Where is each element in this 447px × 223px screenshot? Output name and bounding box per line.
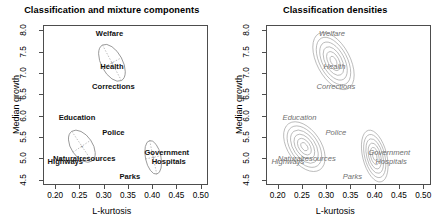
y-tick-label: 5.0 — [234, 153, 260, 163]
data-point-label: Police — [326, 129, 347, 137]
plot-frame-right: WelfareHealthCorrectionsEducationPoliceN… — [266, 25, 431, 185]
y-tick-mark — [262, 52, 266, 53]
y-tick-mark — [39, 158, 43, 159]
data-point-label: Police — [102, 129, 124, 137]
x-tick-mark — [152, 185, 153, 189]
data-point-label: Health — [100, 63, 123, 71]
y-tick-mark — [39, 30, 43, 31]
y-tick-mark — [262, 137, 266, 138]
x-tick-mark — [326, 185, 327, 189]
data-point-label: Corrections — [92, 83, 135, 91]
plot-frame-left: +++WelfareHealthCorrectionsEducationPoli… — [43, 25, 208, 185]
y-tick-label: 8.0 — [234, 25, 260, 35]
x-tick-mark — [128, 185, 129, 189]
x-tick-mark — [375, 185, 376, 189]
density-contour-2 — [275, 114, 334, 179]
y-tick-mark — [39, 180, 43, 181]
y-tick-label: 8.0 — [11, 25, 37, 35]
x-tick-mark — [423, 185, 424, 189]
data-point-label: Government — [368, 149, 410, 157]
data-point-label: Hospitals — [152, 158, 186, 166]
y-tick-mark — [262, 30, 266, 31]
data-point-label: Health — [323, 63, 345, 71]
plot-area-left: +++WelfareHealthCorrectionsEducationPoli… — [44, 26, 207, 184]
y-tick-label: 5.0 — [11, 153, 37, 163]
panel-classification-densities: Classification densities WelfareHealthCo… — [224, 0, 447, 223]
y-axis-title-left: Median growth — [11, 60, 22, 150]
data-point-label: Welfare — [96, 30, 123, 38]
x-tick-mark — [399, 185, 400, 189]
x-tick-mark — [201, 185, 202, 189]
y-tick-mark — [262, 180, 266, 181]
data-point-label: Parks — [343, 173, 362, 181]
y-tick-label: 7.5 — [11, 47, 37, 57]
panel-left-title: Classification and mixture components — [0, 4, 224, 16]
x-tick-mark — [79, 185, 80, 189]
x-tick-mark — [350, 185, 351, 189]
y-tick-label: 4.5 — [11, 175, 37, 185]
data-point-label: Hospitals — [376, 158, 407, 166]
data-point-label: Welfare — [319, 30, 345, 38]
data-point-label: Government — [144, 149, 189, 157]
x-tick-mark — [278, 185, 279, 189]
data-point-label: Highways — [271, 158, 304, 166]
svg-text:+: + — [79, 143, 85, 150]
panel-classification-components: Classification and mixture components ++… — [0, 0, 224, 223]
x-tick-label: 0.50 — [184, 191, 218, 201]
x-tick-mark — [176, 185, 177, 189]
y-tick-mark — [262, 116, 266, 117]
x-axis-title-right: L-kurtosis — [224, 206, 447, 217]
figure-root: Classification and mixture components ++… — [0, 0, 447, 223]
data-point-label: Corrections — [316, 83, 355, 91]
plot-area-right: WelfareHealthCorrectionsEducationPoliceN… — [267, 26, 430, 184]
x-tick-label: 0.50 — [406, 191, 440, 201]
y-tick-mark — [39, 73, 43, 74]
data-point-label: Parks — [120, 173, 141, 181]
y-tick-mark — [39, 137, 43, 138]
panel-right-title: Classification densities — [224, 4, 447, 16]
x-tick-mark — [55, 185, 56, 189]
y-tick-mark — [262, 94, 266, 95]
y-tick-mark — [39, 52, 43, 53]
y-tick-mark — [39, 94, 43, 95]
y-tick-label: 4.5 — [234, 175, 260, 185]
data-point-label: Highways — [48, 158, 83, 166]
y-tick-label: 7.5 — [234, 47, 260, 57]
x-tick-mark — [104, 185, 105, 189]
y-tick-mark — [39, 116, 43, 117]
data-point-label: Education — [283, 114, 317, 122]
y-tick-mark — [262, 158, 266, 159]
x-tick-mark — [302, 185, 303, 189]
x-axis-title-left: L-kurtosis — [0, 206, 224, 217]
y-tick-mark — [262, 73, 266, 74]
y-axis-title-right: Median growth — [233, 60, 244, 150]
data-point-label: Education — [59, 114, 96, 122]
